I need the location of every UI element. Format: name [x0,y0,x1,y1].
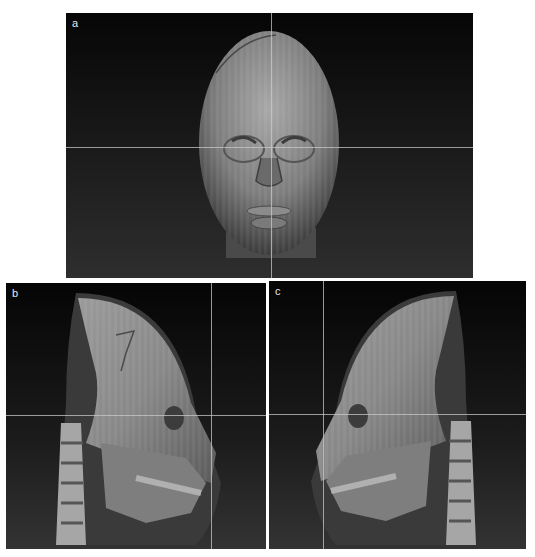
panel-label-a: a [72,18,78,29]
panel-a-frontal-view: a [66,13,473,278]
crosshair-horizontal-line [66,147,473,148]
lateral-head-rendering-left [269,281,526,549]
panel-label-b: b [12,288,18,299]
panel-b-lateral-view: b [6,283,266,549]
crosshair-vertical-line [323,281,324,549]
crosshair-horizontal-line [6,415,266,416]
crosshair-horizontal-line [269,414,526,415]
lateral-head-rendering-right [6,283,266,549]
crosshair-vertical-line [211,283,212,549]
panel-c-lateral-view: c [269,281,526,549]
crosshair-vertical-line [271,13,272,278]
frontal-head-rendering [66,13,473,278]
panel-label-c: c [275,286,281,297]
